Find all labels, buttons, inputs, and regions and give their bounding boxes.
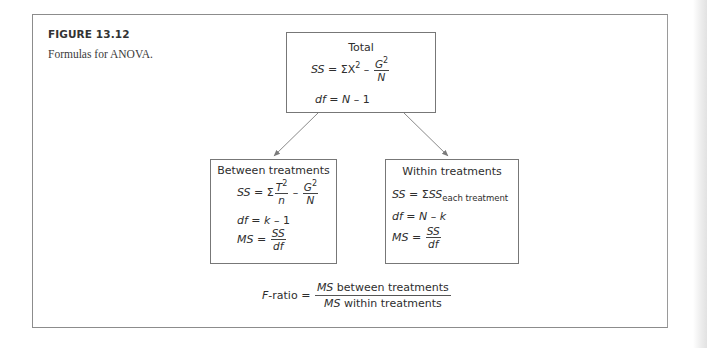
arrow-to-within [404,113,448,156]
total-ss-formula: SS = ΣX2 – G2N [311,57,390,82]
f-ratio-numerator: MS between treatments [315,282,451,296]
between-df-formula: df = k – 1 [237,214,290,227]
arrow-to-between [274,113,318,156]
within-ss-formula: SS = ΣSSeach treatment [392,188,508,203]
within-treatments-box: Within treatments SS = ΣSSeach treatment… [385,159,519,264]
f-ratio-fraction: MS between treatments MS within treatmen… [315,282,451,309]
between-ss-formula: SS = ΣT2n – G2N [237,180,319,205]
within-ms-formula: MS = SSdf [392,226,442,249]
between-treatments-box: Between treatments SS = ΣT2n – G2N df = … [210,159,337,264]
within-title: Within treatments [386,165,518,178]
within-df-formula: df = N – k [392,210,446,223]
total-title: Total [287,41,435,54]
total-box: Total SS = ΣX2 – G2N df = N – 1 [286,32,436,113]
between-ms-formula: MS = SSdf [237,228,287,251]
f-ratio-formula: F-ratio = MS between treatments MS withi… [262,282,452,309]
total-df-formula: df = N – 1 [315,93,370,106]
between-title: Between treatments [211,164,336,177]
f-ratio-denominator: MS within treatments [315,296,451,309]
